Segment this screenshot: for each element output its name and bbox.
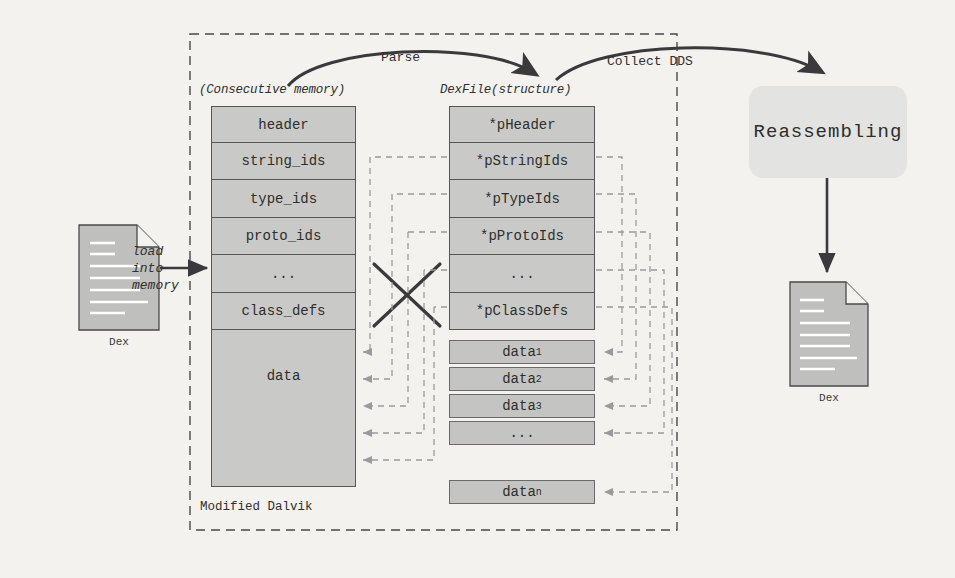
output-dex-label: Dex <box>790 392 868 404</box>
memory-cell-string-ids-label: string_ids <box>241 153 325 169</box>
mapping-invalidated-x <box>374 264 440 326</box>
load-line-3: memory <box>132 277 202 294</box>
data-block-1-base: data <box>502 344 536 360</box>
data-block-1: data1 <box>449 340 595 364</box>
data-block-ellipsis: ... <box>449 421 595 445</box>
input-dex-label: Dex <box>79 336 159 348</box>
memory-cell-class-defs: class_defs <box>211 293 356 330</box>
load-into-memory-label: load into memory <box>132 243 202 294</box>
dexfile-cell-pprotoids: *pProtoIds <box>449 218 595 255</box>
dexfile-cell-ptypeids-label: *pTypeIds <box>484 191 560 207</box>
pointer-links-right <box>596 157 672 492</box>
memory-cell-type-ids: type_ids <box>211 180 356 218</box>
dexfile-cell-pstringids-label: *pStringIds <box>476 153 568 169</box>
data-block-n-sub: n <box>536 487 542 498</box>
memory-cell-proto-ids: proto_ids <box>211 218 356 255</box>
consecutive-memory-caption: (Consecutive memory) <box>199 83 345 97</box>
memory-cell-header-label: header <box>258 117 308 133</box>
memory-cell-ellipsis: ... <box>211 255 356 293</box>
dexfile-cell-ellipsis: ... <box>449 255 595 293</box>
reassembling-label: Reassembling <box>754 121 903 143</box>
dexfile-cell-pclassdefs-label: *pClassDefs <box>476 303 568 319</box>
load-line-1: load <box>132 243 202 260</box>
memory-cell-string-ids: string_ids <box>211 143 356 180</box>
data-block-3-base: data <box>502 398 536 414</box>
memory-cell-data: data <box>211 330 356 487</box>
memory-cell-header: header <box>211 106 356 143</box>
diagram-canvas: Parse Collect DDS load into memory Dex D… <box>0 0 955 578</box>
dexfile-cell-pstringids: *pStringIds <box>449 143 595 180</box>
data-block-3: data3 <box>449 394 595 418</box>
data-block-ellipsis-base: ... <box>509 425 534 441</box>
dexfile-cell-ellipsis-label: ... <box>509 266 534 282</box>
dexfile-cell-ptypeids: *pTypeIds <box>449 180 595 218</box>
dexfile-structure-caption: DexFile(structure) <box>440 83 571 97</box>
dexfile-cell-pheader-label: *pHeader <box>488 117 555 133</box>
dexfile-cell-pprotoids-label: *pProtoIds <box>480 228 564 244</box>
data-block-n-base: data <box>502 484 536 500</box>
output-dex-file-icon <box>790 282 868 386</box>
memory-cell-ellipsis-label: ... <box>271 266 296 282</box>
data-block-2-base: data <box>502 371 536 387</box>
data-block-1-sub: 1 <box>536 347 542 358</box>
data-block-2: data2 <box>449 367 595 391</box>
dexfile-cell-pheader: *pHeader <box>449 106 595 143</box>
memory-cell-proto-ids-label: proto_ids <box>246 228 322 244</box>
data-block-3-sub: 3 <box>536 401 542 412</box>
memory-cell-type-ids-label: type_ids <box>250 191 317 207</box>
collect-dds-label: Collect DDS <box>607 54 693 69</box>
memory-cell-class-defs-label: class_defs <box>241 303 325 319</box>
data-block-n: datan <box>449 480 595 504</box>
load-line-2: into <box>132 260 202 277</box>
data-block-2-sub: 2 <box>536 374 542 385</box>
reassembling-box: Reassembling <box>749 86 907 178</box>
pointer-risers <box>363 157 434 460</box>
parse-label: Parse <box>381 50 420 65</box>
modified-dalvik-label: Modified Dalvik <box>200 500 313 514</box>
dexfile-cell-pclassdefs: *pClassDefs <box>449 293 595 330</box>
memory-cell-data-label: data <box>267 368 301 384</box>
